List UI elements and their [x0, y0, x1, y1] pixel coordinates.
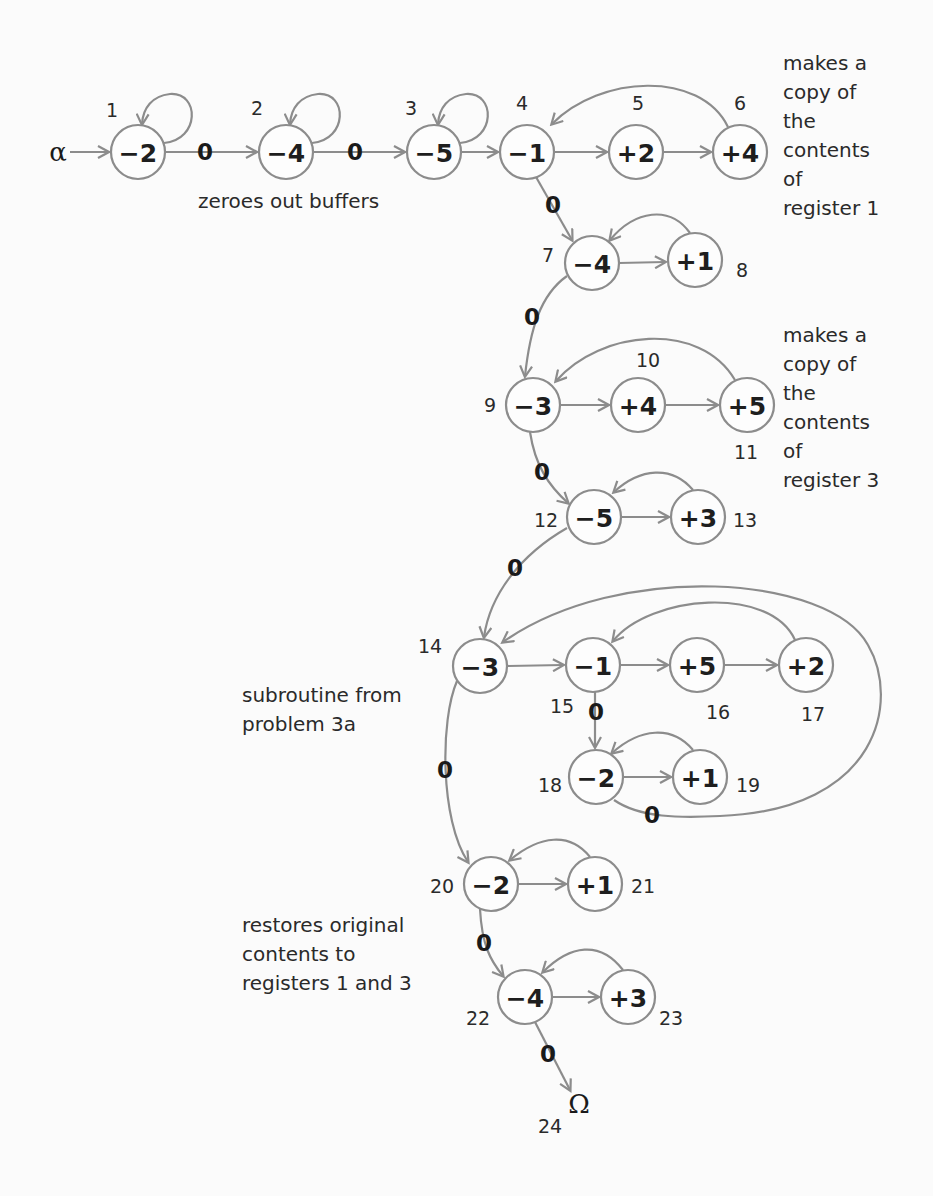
node-operation: +3 — [679, 504, 717, 533]
node-15: −115 — [550, 638, 620, 717]
register-machine-diagram: −21−42−53−14+25+46−47+18−39+410+511−512+… — [0, 0, 933, 1196]
edge-19-to-18 — [612, 733, 693, 753]
edge-label-zero: 0 — [476, 930, 492, 956]
node-number: 6 — [734, 92, 746, 114]
annotation-line: of — [783, 167, 803, 191]
edge-label-zero: 0 — [534, 459, 550, 485]
node-7: −47 — [542, 236, 619, 290]
edge-label-zero: 0 — [347, 139, 363, 165]
node-20: −220 — [430, 857, 518, 911]
node-9: −39 — [484, 378, 560, 432]
node-operation: +5 — [728, 392, 766, 421]
node-17: +217 — [779, 638, 833, 725]
node-6: +46 — [713, 92, 767, 179]
annotation-copy-register-3: makes acopy ofthecontentsofregister 3 — [783, 323, 879, 492]
node-22: −422 — [466, 970, 552, 1029]
edge-label-zero: 0 — [524, 304, 540, 330]
node-operation: −5 — [575, 504, 613, 533]
node-12: −512 — [534, 490, 621, 544]
node-operation: −3 — [514, 392, 552, 421]
node-number: 23 — [659, 1007, 683, 1029]
end-symbol-omega: Ω — [568, 1089, 590, 1119]
node-13: +313 — [671, 490, 757, 544]
node-operation: +4 — [619, 392, 657, 421]
edge-label-zero: 0 — [507, 555, 523, 581]
node-23: +323 — [601, 970, 683, 1029]
annotation-line: zeroes out buffers — [198, 189, 379, 213]
annotation-line: the — [783, 381, 816, 405]
edge-label-zero: 0 — [540, 1041, 556, 1067]
edge-label-zero: 0 — [588, 699, 604, 725]
edge-12-to-14 — [484, 528, 567, 637]
annotation-line: contents to — [242, 942, 355, 966]
edge-8-to-7 — [610, 215, 690, 240]
node-number: 22 — [466, 1007, 490, 1029]
node-1: −21 — [106, 99, 165, 179]
node-operation: +4 — [721, 139, 759, 168]
node-operation: −2 — [119, 139, 157, 168]
edge-7-to-8 — [619, 262, 665, 263]
annotation-line: of — [783, 439, 803, 463]
node-number: 20 — [430, 875, 454, 897]
annotation-line: contents — [783, 138, 870, 162]
node-operation: −4 — [267, 139, 305, 168]
node-number: 18 — [538, 774, 562, 796]
node-10: +410 — [611, 349, 665, 432]
nodes-layer: −21−42−53−14+25+46−47+18−39+410+511−512+… — [106, 92, 833, 1029]
node-operation: −1 — [508, 139, 546, 168]
node-number: 13 — [733, 509, 757, 531]
edge-17-to-15 — [613, 603, 795, 641]
edge-14-to-15 — [507, 665, 563, 666]
annotation-line: subroutine from — [242, 683, 402, 707]
node-16: +516 — [670, 638, 730, 723]
annotation-line: copy of — [783, 80, 857, 104]
node-operation: −4 — [506, 984, 544, 1013]
annotation-line: restores original — [242, 913, 404, 937]
node-11: +511 — [720, 378, 774, 463]
node-operation: +1 — [676, 247, 714, 276]
edge-label-zero: 0 — [437, 757, 453, 783]
node-number: 8 — [736, 259, 748, 281]
node-number: 4 — [516, 92, 528, 114]
annotation-restore: restores originalcontents toregisters 1 … — [242, 913, 412, 995]
node-operation: −1 — [574, 652, 612, 681]
edge-label-zero: 0 — [545, 192, 561, 218]
node-number: 15 — [550, 695, 574, 717]
edge-label-zero: 0 — [644, 802, 660, 828]
node-number: 7 — [542, 244, 554, 266]
node-number: 9 — [484, 394, 496, 416]
node-14: −314 — [418, 635, 507, 693]
node-18: −218 — [538, 750, 623, 804]
annotation-line: registers 1 and 3 — [242, 971, 412, 995]
edge-21-to-20 — [510, 840, 590, 860]
node-number: 19 — [736, 774, 760, 796]
node-operation: +5 — [678, 652, 716, 681]
node-number: 1 — [106, 99, 118, 121]
node-operation: −2 — [577, 764, 615, 793]
annotation-line: contents — [783, 410, 870, 434]
node-operation: −4 — [573, 250, 611, 279]
node-number: 21 — [631, 875, 655, 897]
node-4: −14 — [500, 92, 554, 179]
node-operation: +3 — [609, 984, 647, 1013]
annotation-line: register 3 — [783, 468, 879, 492]
node-number: 12 — [534, 509, 558, 531]
edge-13-to-12 — [614, 473, 693, 492]
annotation-line: makes a — [783, 51, 867, 75]
annotation-line: the — [783, 109, 816, 133]
node-operation: +1 — [681, 764, 719, 793]
node-operation: −3 — [461, 653, 499, 682]
start-symbol-alpha: α — [49, 137, 67, 167]
node-number: 5 — [632, 92, 644, 114]
node-number: 14 — [418, 635, 442, 657]
annotation-line: problem 3a — [242, 712, 356, 736]
annotation-zero-out: zeroes out buffers — [198, 189, 379, 213]
node-3: −53 — [405, 97, 461, 179]
end-node-number: 24 — [538, 1115, 562, 1137]
node-number: 17 — [801, 703, 825, 725]
annotation-line: register 1 — [783, 196, 879, 220]
annotation-copy-register-1: makes acopy ofthecontentsofregister 1 — [783, 51, 879, 220]
node-number: 10 — [636, 349, 660, 371]
node-operation: +1 — [576, 871, 614, 900]
edge-label-zero: 0 — [197, 139, 213, 165]
